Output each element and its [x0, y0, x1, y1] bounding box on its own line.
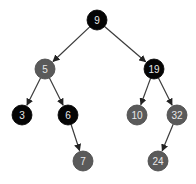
edge-n9-n5	[53, 27, 90, 62]
node-label: 6	[65, 110, 71, 121]
edge-n19-n10	[141, 78, 151, 104]
tree-node-10: 10	[127, 105, 147, 125]
tree-node-3: 3	[12, 105, 32, 125]
node-label: 5	[42, 64, 48, 75]
red-black-tree-diagram: 9519361032724	[0, 0, 196, 184]
edge-n9-n19	[105, 27, 146, 62]
tree-node-5: 5	[35, 59, 55, 79]
edge-n32-n24	[162, 124, 173, 151]
tree-node-6: 6	[58, 105, 78, 125]
edge-n19-n32	[158, 78, 172, 105]
node-label: 19	[148, 64, 160, 75]
edge-n6-n7	[71, 125, 79, 151]
node-label: 32	[171, 110, 183, 121]
node-label: 7	[80, 156, 86, 167]
node-label: 10	[131, 110, 143, 121]
edges-group	[27, 27, 173, 151]
tree-node-24: 24	[148, 151, 168, 171]
nodes-group: 9519361032724	[12, 10, 187, 171]
node-label: 9	[94, 15, 100, 26]
tree-node-9: 9	[87, 10, 107, 30]
tree-node-7: 7	[73, 151, 93, 171]
tree-node-32: 32	[167, 105, 187, 125]
node-label: 24	[152, 156, 164, 167]
edge-n5-n6	[49, 78, 63, 105]
node-label: 3	[19, 110, 25, 121]
edge-n5-n3	[27, 78, 41, 105]
tree-node-19: 19	[144, 59, 164, 79]
